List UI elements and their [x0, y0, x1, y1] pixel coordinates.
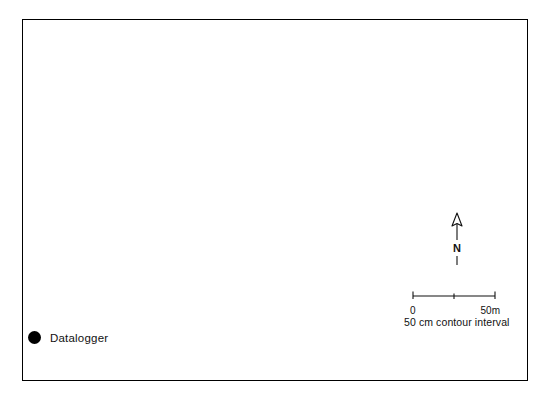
north-arrow-icon — [440, 210, 474, 244]
map-figure: LittleRushCreek 269270271271271271284284… — [0, 0, 549, 400]
legend-datalogger-label: Datalogger — [50, 332, 108, 344]
legend-datalogger: Datalogger — [28, 331, 108, 344]
scale-bar: 0 50m — [412, 286, 496, 318]
north-letter: N — [440, 242, 474, 254]
north-arrow: N — [440, 210, 474, 266]
scale-bar-graphic — [412, 291, 496, 300]
contour-interval-note: 50 cm contour interval — [404, 316, 510, 328]
scale-max-label: 50m — [481, 305, 500, 316]
scale-min-label: 0 — [410, 305, 416, 316]
filled-circle-icon — [28, 331, 41, 344]
north-arrow-tail — [440, 256, 474, 268]
